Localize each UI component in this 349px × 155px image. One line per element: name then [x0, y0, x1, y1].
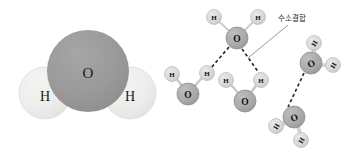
oxygen-label: O	[184, 90, 191, 100]
annotation-pointer-line	[248, 25, 288, 58]
hydrogen-label: H	[204, 70, 210, 78]
oxygen-atom-label: O	[83, 65, 94, 81]
hydrogen-label: H	[169, 71, 175, 79]
molecule-bottom-center: H H O	[219, 73, 269, 113]
molecule-left: H H O	[165, 66, 215, 106]
molecule-right: H H O	[300, 36, 341, 75]
hydrogen-atom-label-left: H	[40, 89, 50, 104]
figure-root: O H H	[0, 0, 349, 155]
oxygen-label: O	[233, 34, 240, 44]
figure-canvas: O H H	[0, 0, 349, 155]
molecule-top: H H O	[207, 10, 266, 50]
covalent-bonds-group	[172, 17, 333, 140]
panel-hydrogen-bond-network: H H O H H O H H O	[165, 10, 341, 148]
hydrogen-label: H	[258, 77, 264, 85]
hbond-top-to-left-h	[211, 47, 229, 68]
hbond-right-to-bottom-right-o	[288, 73, 304, 107]
hydrogen-label: H	[211, 14, 217, 22]
panel-space-filling-water: O H H	[19, 30, 156, 119]
hydrogen-label: H	[255, 14, 261, 22]
hydrogen-bond-annotation-label: 수소결합	[278, 13, 306, 23]
hbond-top-to-bottom-center-h	[242, 49, 259, 73]
oxygen-label: O	[241, 97, 248, 107]
hydrogen-label: H	[223, 77, 229, 85]
molecule-bottom-right: H H O	[269, 106, 309, 148]
hydrogen-atom-label-right: H	[125, 89, 135, 104]
